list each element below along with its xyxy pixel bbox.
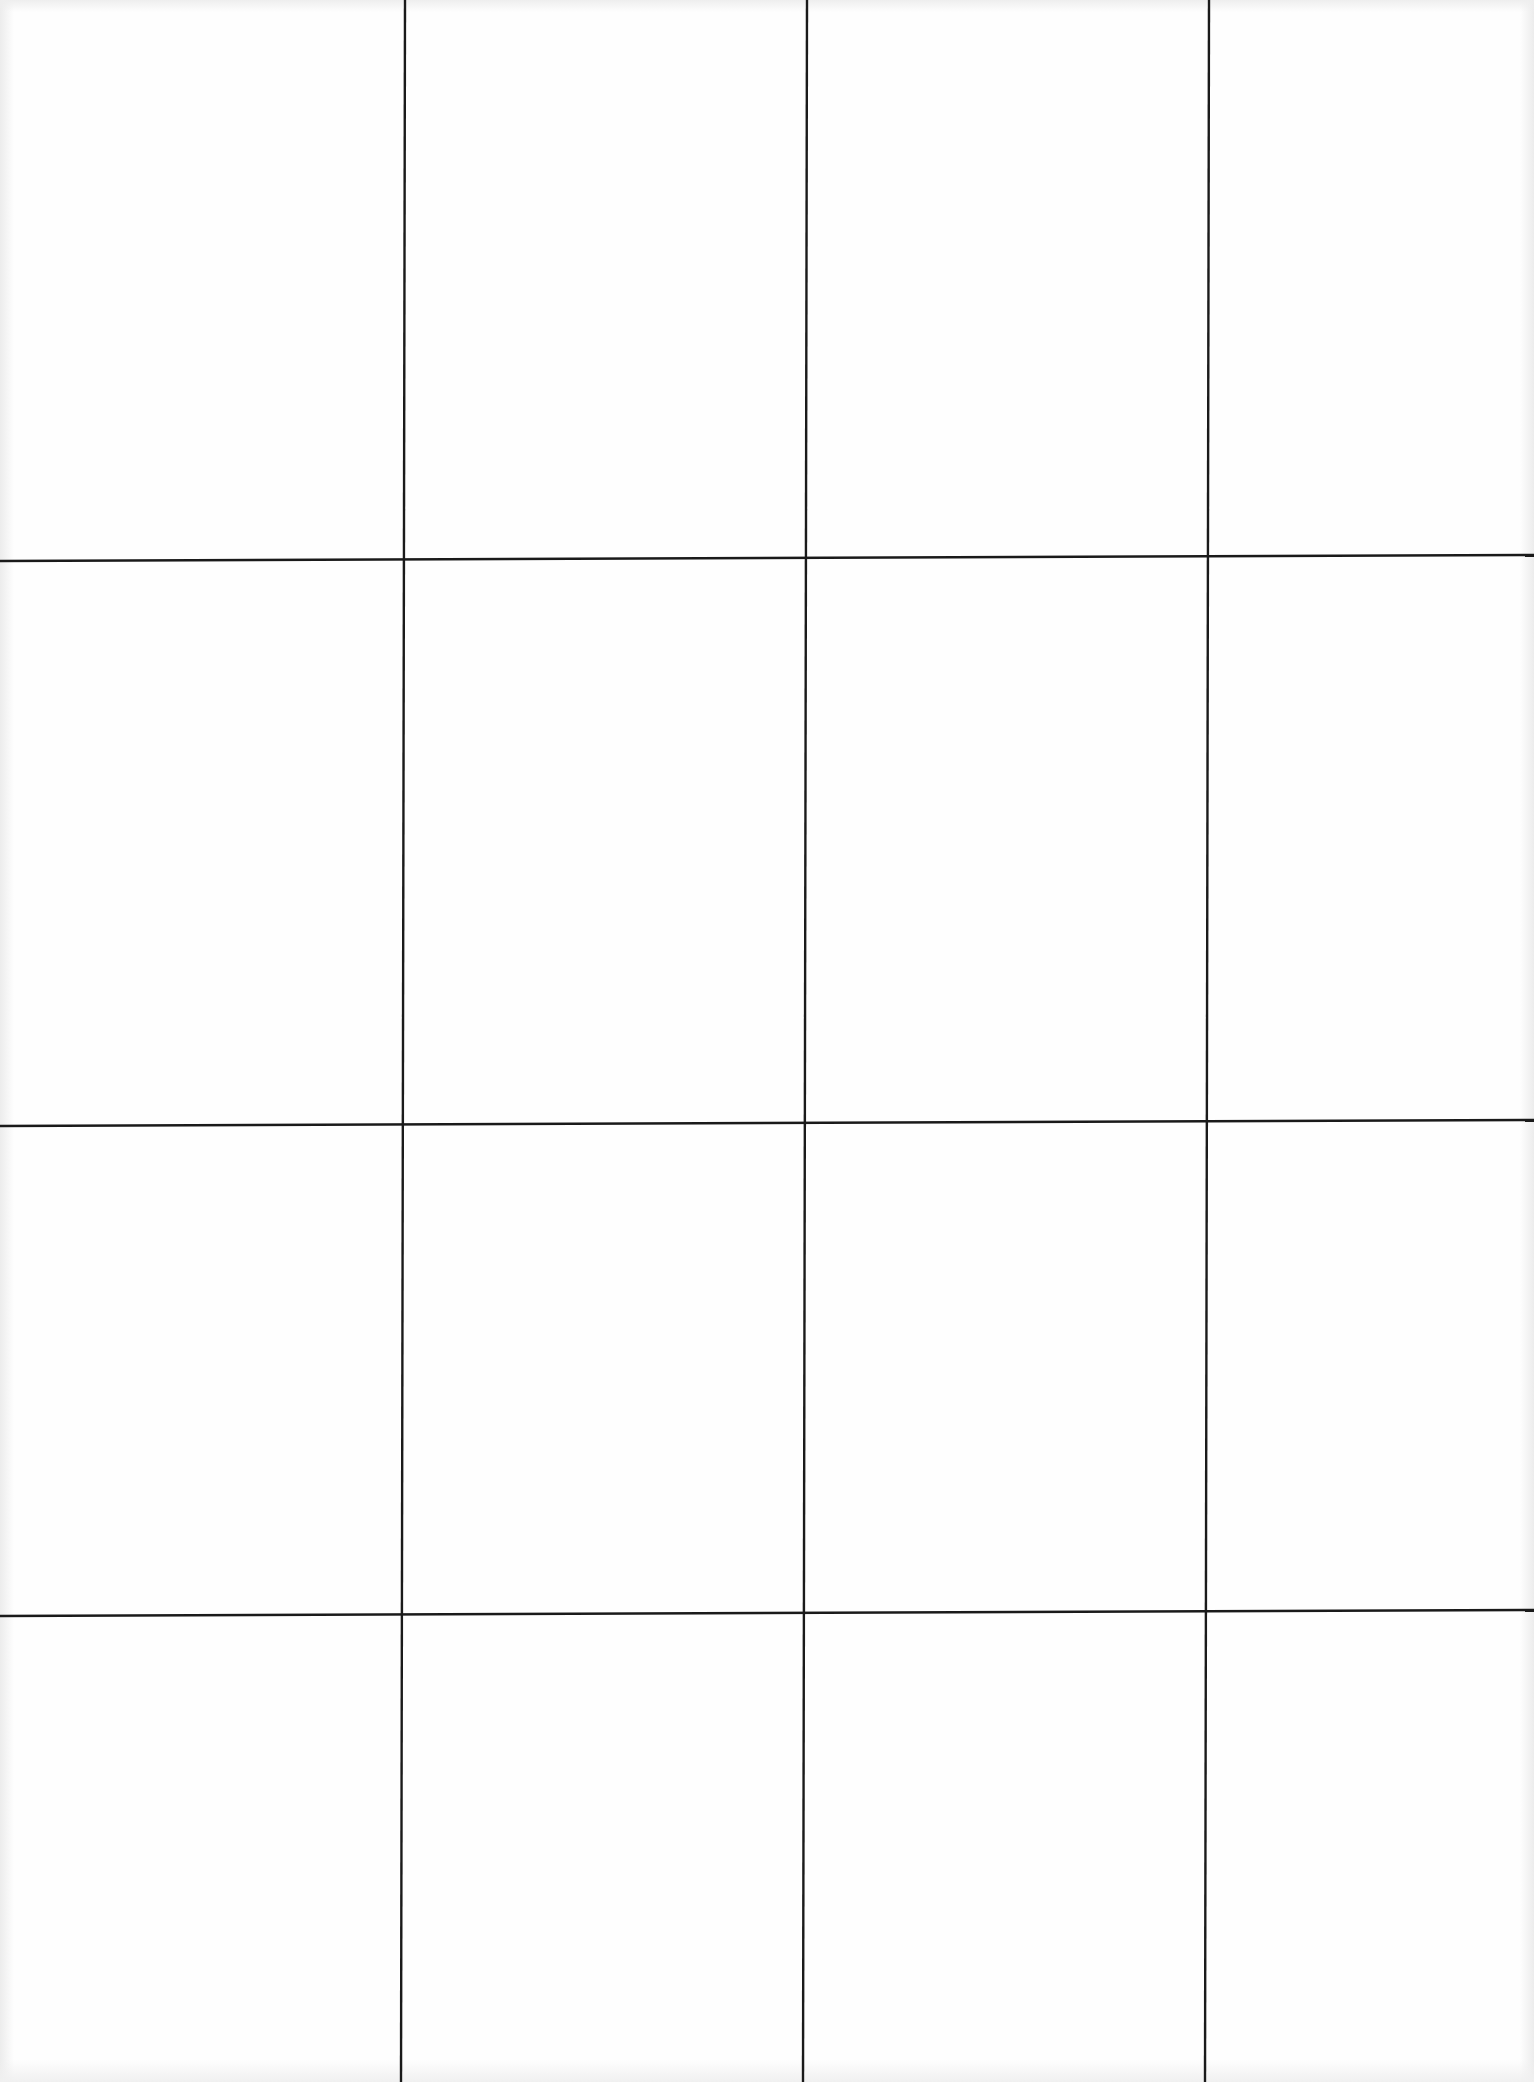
scanned-page xyxy=(0,0,1534,2082)
grid-lines xyxy=(0,0,1534,2082)
vertical-line-2 xyxy=(803,0,807,2082)
vertical-line-3 xyxy=(1205,0,1209,2082)
horizontal-line-3 xyxy=(0,1610,1534,1616)
horizontal-grid-lines xyxy=(0,555,1534,1616)
horizontal-line-1 xyxy=(0,555,1534,561)
vertical-line-1 xyxy=(401,0,405,2082)
vertical-grid-lines xyxy=(401,0,1209,2082)
horizontal-line-2 xyxy=(0,1120,1534,1126)
